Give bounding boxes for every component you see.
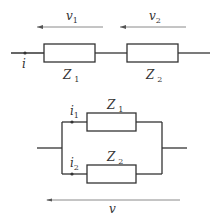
impedance-z1 (44, 44, 95, 62)
arrowhead-icon (37, 25, 43, 29)
label-v1: v1 (66, 9, 78, 25)
label-z1: Z1 (62, 68, 79, 84)
label-i1: i1 (70, 104, 79, 120)
label-i: i (22, 57, 26, 71)
current-dot-icon (70, 172, 73, 175)
parallel-circuit: i1 i2 Z1 Z2 v (37, 98, 187, 214)
label-v2: v2 (149, 9, 161, 25)
label-z2: Z2 (106, 150, 123, 166)
series-circuit: v1 v2 i Z1 Z2 (11, 9, 210, 84)
label-i2: i2 (70, 156, 79, 172)
arrowhead-icon (46, 199, 52, 202)
current-dot-icon (70, 120, 73, 123)
circuit-diagram: v1 v2 i Z1 Z2 (0, 0, 223, 214)
impedance-z1 (87, 113, 136, 131)
label-z2: Z2 (145, 68, 162, 84)
label-v: v (109, 202, 116, 214)
label-z1: Z1 (106, 98, 123, 114)
impedance-z2 (87, 165, 136, 183)
current-dot-icon (23, 51, 26, 54)
arrowhead-icon (120, 25, 126, 29)
impedance-z2 (127, 44, 178, 62)
